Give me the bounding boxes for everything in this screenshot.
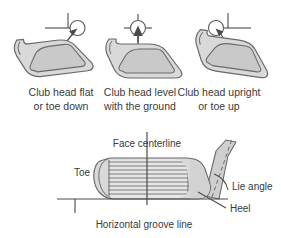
figure-canvas: Club head flat or toe down Club head lev…: [0, 0, 281, 238]
label-horizontal-groove-line: Horizontal groove line: [96, 219, 193, 230]
golf-club-lie-angle-figure: Club head flat or toe down Club head lev…: [0, 0, 281, 238]
caption-flat-line2: or toe down: [34, 100, 89, 112]
label-heel: Heel: [230, 203, 251, 214]
caption-upright-line2: or toe up: [198, 100, 240, 112]
label-toe: Toe: [74, 167, 91, 178]
label-face-centerline: Face centerline: [113, 138, 182, 149]
caption-level-line2: with the ground: [103, 100, 176, 112]
caption-upright-line1: Club head upright: [178, 86, 261, 98]
caption-level-line1: Club head level: [104, 86, 176, 98]
caption-flat-line1: Club head flat: [29, 86, 94, 98]
clubhead-bottom: [94, 155, 211, 203]
label-lie-angle: Lie angle: [232, 181, 273, 192]
groove-panel: [108, 155, 192, 203]
